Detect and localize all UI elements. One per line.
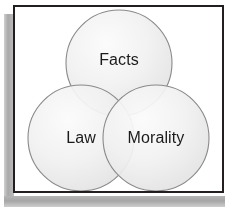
- venn-label-morality: Morality: [128, 130, 185, 146]
- venn-stage: Facts Law Morality: [15, 7, 226, 195]
- diagram-frame: Facts Law Morality: [13, 5, 224, 193]
- venn-circles-svg: [15, 7, 226, 195]
- venn-diagram-figure: Facts Law Morality: [0, 0, 234, 212]
- venn-label-facts: Facts: [99, 52, 139, 68]
- frame-shadow-bottom: [4, 196, 225, 207]
- venn-label-law: Law: [66, 130, 96, 146]
